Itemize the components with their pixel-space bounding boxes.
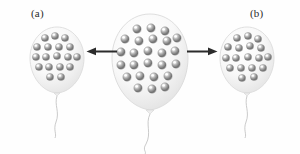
particle-highlight [224,56,226,58]
gas-particle [246,42,253,49]
particle-highlight [246,55,248,57]
gas-particle [259,64,266,71]
arrow-left-icon [86,44,118,60]
gas-particle [233,34,240,41]
particle-highlight [256,37,258,39]
gas-particle [255,54,262,61]
gas-particle [238,74,245,81]
figure-root: (a) (b) [0,0,300,154]
particle-highlight [226,45,228,47]
particle-highlight [257,56,259,58]
gas-particle [248,64,255,71]
balloon-b-string [245,96,248,138]
gas-particle [244,32,251,39]
particle-highlight [250,66,252,68]
particle-highlight [261,66,263,68]
particle-highlight [266,55,268,57]
gas-particle [235,44,242,51]
arrow-pointing-right [186,44,218,60]
arrow-right-icon [186,44,218,60]
gas-particle [250,73,257,80]
particle-highlight [237,46,239,48]
gas-particle [254,35,261,42]
gas-particle [222,54,229,61]
particle-highlight [234,56,236,58]
balloon-b-graphic [0,0,300,154]
particle-highlight [259,46,261,48]
particle-highlight [239,66,241,68]
gas-particle [232,54,239,61]
gas-particle [257,44,264,51]
gas-particle [244,53,251,60]
gas-particle [224,43,231,50]
gas-particle [237,64,244,71]
gas-particle [264,53,271,60]
particle-highlight [235,36,237,38]
particle-highlight [240,76,242,78]
particle-highlight [228,66,230,68]
balloon-b [0,0,300,154]
particle-highlight [248,44,250,46]
particle-highlight [252,75,254,77]
arrow-pointing-left [86,44,118,60]
gas-particle [226,64,233,71]
particle-highlight [246,34,248,36]
